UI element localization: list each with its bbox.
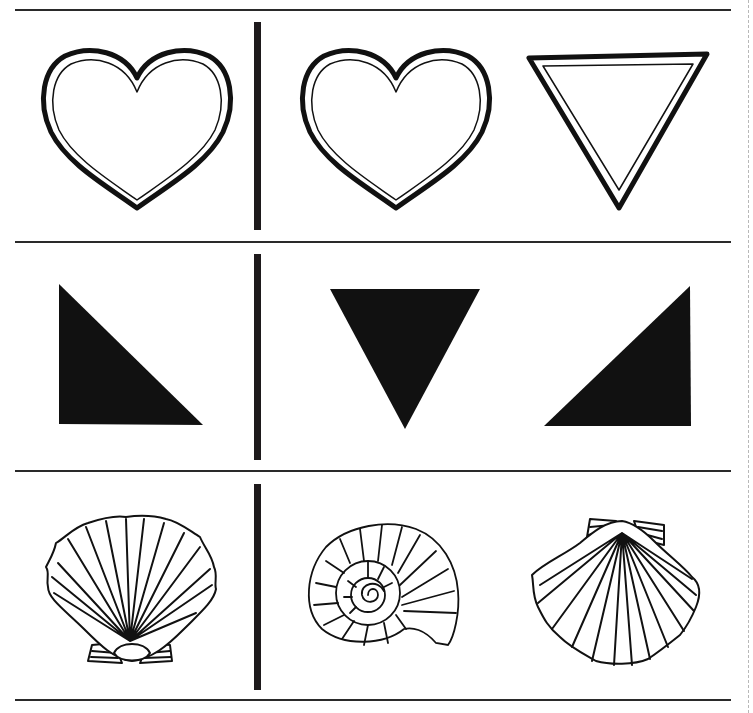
row-theme: hearts and triangles (outlined): [15, 12, 16, 13]
reference-scallop-shell-icon[interactable]: [44, 513, 222, 665]
row-theme: seashells: [15, 473, 16, 474]
row-divider-bottom: [15, 699, 731, 701]
choice-scallop-shell-inverted-icon[interactable]: [530, 515, 708, 667]
worksheet-row-1: hearts and triangles (outlined): [15, 12, 731, 240]
row-divider-top: [15, 9, 731, 11]
choice-triangle-outline-icon[interactable]: [527, 52, 709, 210]
row-theme: solid triangles: [15, 244, 16, 245]
row-divider-2: [15, 470, 731, 472]
dashed-cut-line: [748, 0, 749, 713]
choice-solid-right-triangle-mirrored-icon[interactable]: [544, 286, 692, 428]
row-divider-1: [15, 241, 731, 243]
choice-heart-outline-icon[interactable]: [300, 46, 492, 212]
worksheet-row-2: solid triangles: [15, 244, 731, 469]
worksheet-row-3: seashells: [15, 473, 731, 698]
reference-heart-outline-icon[interactable]: [41, 46, 233, 212]
choice-spiral-shell-icon[interactable]: [304, 521, 462, 653]
reference-solid-right-triangle-icon[interactable]: [59, 284, 205, 427]
choice-solid-inverted-triangle-icon[interactable]: [330, 289, 482, 431]
